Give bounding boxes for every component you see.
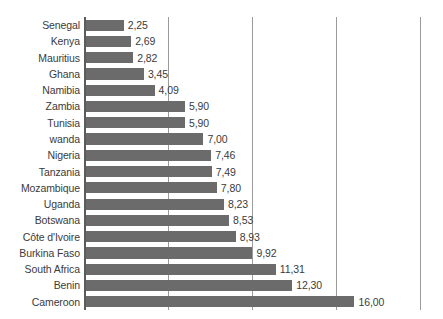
bar-row: Cameroon16,00: [0, 294, 443, 310]
bar-row: Zambia5,90: [0, 98, 443, 114]
bar-row: Tanzania7,49: [0, 164, 443, 180]
bar-row: Kenya2,69: [0, 33, 443, 49]
bar: [86, 20, 124, 31]
category-label: Ghana: [49, 66, 80, 82]
category-label: Zambia: [46, 98, 80, 114]
bar-row: Uganda8,23: [0, 196, 443, 212]
bar-value-label: 5,90: [189, 98, 209, 114]
bar-row: Ghana3,45: [0, 66, 443, 82]
bar-value-label: 8,23: [228, 196, 248, 212]
category-label: Tanzania: [39, 164, 80, 180]
bar-row: Nigeria7,46: [0, 147, 443, 163]
bar-value-label: 8,93: [240, 229, 260, 245]
bar-value-label: 4,09: [159, 82, 179, 98]
bar: [86, 150, 211, 161]
category-label: Cameroon: [32, 294, 80, 310]
bar-value-label: 2,25: [128, 17, 148, 33]
category-label: Namibia: [42, 82, 80, 98]
bar-value-label: 7,80: [221, 180, 241, 196]
category-label: Burkina Faso: [19, 245, 80, 261]
category-label: Botswana: [35, 212, 80, 228]
category-label: Senegal: [42, 17, 80, 33]
bar: [86, 280, 292, 291]
bar: [86, 133, 203, 144]
bar-row: wanda7,00: [0, 131, 443, 147]
bar-row: South Africa11,31: [0, 261, 443, 277]
bar: [86, 166, 212, 177]
bar-value-label: 16,00: [358, 294, 384, 310]
category-label: Benin: [54, 277, 80, 293]
bar-rows: Senegal2,25Kenya2,69Mauritius2,82Ghana3,…: [0, 0, 443, 319]
bar-row: Namibia4,09: [0, 82, 443, 98]
bar: [86, 117, 185, 128]
bar-value-label: 2,69: [135, 33, 155, 49]
category-label: Mozambique: [21, 180, 80, 196]
bar: [86, 52, 133, 63]
category-label: wanda: [50, 131, 80, 147]
category-label: Uganda: [44, 196, 80, 212]
bar-row: Senegal2,25: [0, 17, 443, 33]
bar: [86, 215, 229, 226]
bar-row: Mozambique7,80: [0, 180, 443, 196]
bar-value-label: 2,82: [137, 50, 157, 66]
category-label: South Africa: [25, 261, 80, 277]
bar-row: Tunisia5,90: [0, 115, 443, 131]
bar-row: Benin12,30: [0, 277, 443, 293]
bar: [86, 264, 276, 275]
bar: [86, 68, 144, 79]
bar-row: Botswana8,53: [0, 212, 443, 228]
bar: [86, 101, 185, 112]
category-label: Côte d'Ivoire: [23, 229, 80, 245]
bar-value-label: 7,00: [207, 131, 227, 147]
bar: [86, 199, 224, 210]
bar-chart: Senegal2,25Kenya2,69Mauritius2,82Ghana3,…: [0, 0, 443, 319]
category-label: Mauritius: [38, 50, 80, 66]
bar-value-label: 7,46: [215, 147, 235, 163]
bar: [86, 296, 354, 307]
bar: [86, 36, 131, 47]
bar-row: Burkina Faso9,92: [0, 245, 443, 261]
category-label: Tunisia: [47, 115, 80, 131]
bar-row: Mauritius2,82: [0, 50, 443, 66]
bar: [86, 247, 252, 258]
bar: [86, 85, 155, 96]
category-label: Kenya: [51, 33, 80, 49]
bar-value-label: 11,31: [280, 261, 305, 277]
bar-value-label: 5,90: [189, 115, 209, 131]
category-label: Nigeria: [47, 147, 80, 163]
bar-value-label: 9,92: [256, 245, 276, 261]
bar-row: Côte d'Ivoire8,93: [0, 229, 443, 245]
bar-value-label: 3,45: [148, 66, 168, 82]
bar-value-label: 12,30: [296, 277, 322, 293]
bar: [86, 231, 236, 242]
bar-value-label: 7,49: [216, 164, 236, 180]
bar: [86, 182, 217, 193]
bar-value-label: 8,53: [233, 212, 253, 228]
